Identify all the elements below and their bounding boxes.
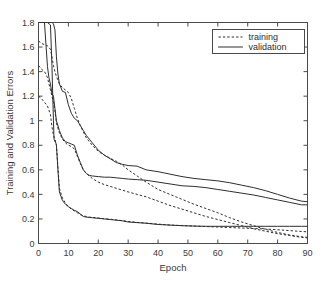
y-tick-label: 0.6 [22,165,35,175]
y-tick-label: 0.2 [22,214,35,224]
y-tick-label: 0 [29,239,34,249]
chart-figure: 010203040506070809000.20.40.60.811.21.41… [0,0,327,290]
y-axis-title: Training and Validation Errors [4,70,15,195]
x-tick-label: 60 [213,248,223,258]
x-tick-label: 90 [302,248,312,258]
x-tick-label: 10 [63,248,73,258]
line-chart: 010203040506070809000.20.40.60.811.21.41… [0,0,327,290]
plot-frame [39,23,308,244]
x-tick-label: 80 [273,248,283,258]
x-tick-label: 50 [183,248,193,258]
y-tick-label: 1.2 [22,91,35,101]
y-tick-label: 1.8 [22,18,35,28]
x-tick-label: 70 [243,248,253,258]
y-tick-label: 0.8 [22,140,35,150]
y-tick-label: 1.6 [22,42,35,52]
x-tick-label: 30 [123,248,133,258]
x-tick-label: 20 [93,248,103,258]
x-axis-title: Epoch [160,262,187,273]
x-tick-label: 0 [36,248,41,258]
y-tick-label: 0.4 [22,190,35,200]
legend-label-validation: validation [249,42,287,52]
x-tick-label: 40 [153,248,163,258]
y-tick-label: 1.4 [22,67,35,77]
legend-label-training: training [249,32,279,42]
y-tick-label: 1 [29,116,34,126]
